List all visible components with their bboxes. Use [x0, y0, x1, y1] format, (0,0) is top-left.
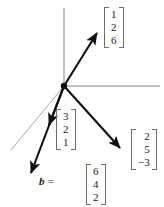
vector-126-values: 1 2 6	[109, 7, 119, 48]
vector-126-component-3: 6	[111, 34, 117, 47]
vector-diagram-figure: 1 2 6 2 5 −3 3 2 1 b= 6 4 2	[0, 0, 164, 207]
vector-126-component-2: 2	[111, 21, 117, 34]
label-vector-126: 1 2 6	[104, 7, 124, 48]
bracket-right-icon	[119, 7, 124, 48]
vector-321-component-3: 1	[63, 136, 69, 149]
origin-dot	[61, 83, 67, 89]
vector-b-equals: =	[48, 175, 54, 187]
vector-321-component-1: 3	[63, 110, 69, 123]
vectors-group	[31, 33, 120, 173]
bracket-right-icon	[101, 164, 106, 205]
vector-25-3-component-3: −3	[138, 156, 150, 169]
vector-25-3-values: 2 5 −3	[136, 129, 152, 170]
vector-126-component-1: 1	[111, 8, 117, 21]
diagram-canvas	[0, 0, 164, 207]
vector-b-component-1: 6	[93, 165, 99, 178]
vector-321-component-2: 2	[63, 123, 69, 136]
vector-b-values: 6 4 2	[91, 164, 101, 205]
bracket-right-icon	[152, 129, 157, 170]
vector-b-component-2: 4	[93, 178, 99, 191]
vector-321-values: 3 2 1	[61, 109, 71, 150]
vector-b-component-3: 2	[93, 191, 99, 204]
vector-b-name-label: b=	[39, 175, 54, 187]
bracket-right-icon	[71, 109, 76, 150]
label-vector-321: 3 2 1	[56, 109, 76, 150]
vector-126-arrow	[64, 33, 97, 86]
label-vector-b: 6 4 2	[86, 164, 106, 205]
vector-25-3-component-2: 5	[138, 143, 150, 156]
label-vector-25-3: 2 5 −3	[131, 129, 157, 170]
vector-b-symbol: b	[39, 175, 45, 187]
vector-25-3-component-1: 2	[138, 130, 150, 143]
